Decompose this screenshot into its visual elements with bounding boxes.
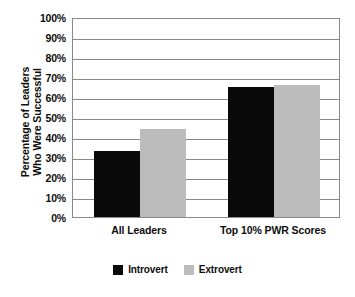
bars-layer <box>73 19 339 217</box>
y-axis-tick-label: 90% <box>46 32 66 44</box>
y-axis-tick-label: 80% <box>46 52 66 64</box>
y-axis-tick-label: 50% <box>46 112 66 124</box>
legend-swatch-introvert <box>113 265 123 275</box>
chart-legend: IntrovertExtrovert <box>0 264 355 275</box>
legend-item-introvert[interactable]: Introvert <box>113 264 168 275</box>
bar-extrovert-2 <box>274 85 320 217</box>
y-axis-tick-label: 60% <box>46 92 66 104</box>
y-axis-tick-label: 70% <box>46 72 66 84</box>
y-axis-tick-label: 30% <box>46 152 66 164</box>
y-axis-tick-label: 20% <box>46 172 66 184</box>
y-axis-tick-label: 0% <box>51 212 66 224</box>
x-axis-category-label: Top 10% PWR Scores <box>220 224 326 236</box>
y-axis-tick-label: 40% <box>46 132 66 144</box>
legend-label: Extrovert <box>199 264 242 275</box>
bar-extrovert-1 <box>140 129 186 217</box>
legend-label: Introvert <box>128 264 168 275</box>
bar-introvert-2 <box>228 87 274 217</box>
y-axis-tick-labels: 0%10%20%30%40%50%60%70%80%90%100% <box>24 18 69 218</box>
x-axis-category-label: All Leaders <box>111 224 167 236</box>
y-axis-tick-label: 10% <box>46 192 66 204</box>
bar-introvert-1 <box>94 151 140 217</box>
bar-chart: Percentage of Leaders Who Were Successfu… <box>0 0 355 297</box>
x-axis-category-labels: All LeadersTop 10% PWR Scores <box>72 224 340 242</box>
legend-swatch-extrovert <box>184 265 194 275</box>
plot-area <box>72 18 340 218</box>
y-axis-tick-label: 100% <box>40 12 66 24</box>
legend-item-extrovert[interactable]: Extrovert <box>184 264 242 275</box>
